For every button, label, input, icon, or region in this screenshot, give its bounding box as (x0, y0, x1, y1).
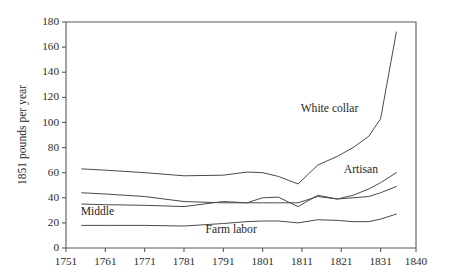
chart-figure: 020406080100120140160180 175117611771178… (0, 0, 450, 278)
x-tick-label: 1781 (173, 255, 195, 267)
y-tick-label: 60 (48, 166, 60, 178)
line-chart-canvas: 020406080100120140160180 175117611771178… (0, 0, 450, 278)
y-tick-label: 180 (42, 15, 59, 27)
x-tick-label: 1821 (330, 255, 352, 267)
series-label-farm-labor: Farm labor (206, 223, 257, 236)
series-label-middle: Middle (81, 205, 115, 218)
y-tick-label: 0 (53, 241, 59, 253)
x-tick-label: 1840 (405, 255, 428, 267)
chart-background (0, 0, 450, 278)
x-tick-label: 1801 (251, 255, 273, 267)
y-axis-title: 1851 pounds per year (16, 85, 29, 185)
x-tick-label: 1811 (291, 255, 313, 267)
y-tick-label: 40 (48, 191, 60, 203)
y-tick-label: 120 (42, 90, 59, 102)
y-tick-label: 160 (42, 40, 59, 52)
series-label-artisan: Artisan (344, 163, 378, 176)
x-tick-label: 1831 (369, 255, 391, 267)
x-tick-label: 1761 (94, 255, 116, 267)
series-label-white-collar: White collar (301, 102, 359, 115)
y-tick-label: 80 (48, 141, 60, 153)
y-tick-label: 100 (42, 116, 59, 128)
x-tick-label: 1791 (212, 255, 234, 267)
x-tick-label: 1771 (133, 255, 155, 267)
y-tick-label: 20 (48, 216, 60, 228)
x-tick-label: 1751 (55, 255, 77, 267)
y-tick-label: 140 (42, 65, 59, 77)
